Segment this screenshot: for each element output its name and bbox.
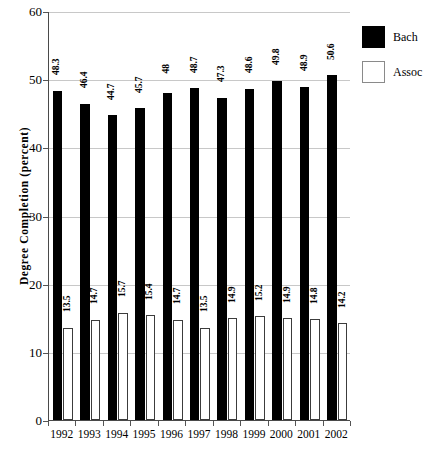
bar-assoc — [228, 318, 238, 420]
bar-value-label: 14.9 — [228, 278, 238, 312]
x-tick-label: 2002 — [316, 428, 356, 442]
chart-legend: Bach Assoc — [362, 26, 428, 96]
y-tick-label: 20 — [16, 278, 42, 291]
y-tick-mark — [43, 285, 48, 286]
y-tick-mark — [43, 421, 48, 422]
bar-value-label: 13.5 — [63, 287, 73, 321]
x-tick-mark — [240, 421, 241, 426]
bar-assoc — [63, 328, 73, 420]
y-tick-label: 50 — [16, 73, 42, 86]
bar-bach — [327, 75, 337, 420]
bar-assoc — [310, 319, 320, 420]
legend-swatch-assoc-icon — [362, 61, 385, 83]
bar-value-label: 49.8 — [272, 40, 282, 74]
bar-bach — [163, 93, 173, 420]
bar-group: 46.414.7 — [76, 12, 103, 420]
x-tick-mark — [158, 421, 159, 426]
bar-assoc — [91, 320, 101, 420]
bar-group: 50.614.2 — [324, 12, 351, 420]
bar-assoc — [118, 313, 128, 420]
bar-value-label: 50.6 — [327, 34, 337, 68]
y-tick-mark — [43, 12, 48, 13]
bar-bach — [300, 87, 310, 420]
plot-area: 48.313.546.414.744.715.745.715.44814.748… — [48, 12, 350, 421]
bar-bach — [217, 98, 227, 420]
bar-assoc — [338, 323, 348, 420]
bar-assoc — [283, 318, 293, 420]
bar-value-label: 15.4 — [146, 274, 156, 308]
bar-value-label: 48.9 — [300, 46, 310, 80]
bar-value-label: 46.4 — [80, 63, 90, 97]
legend-label-assoc: Assoc — [393, 65, 422, 80]
bar-value-label: 14.9 — [283, 278, 293, 312]
bar-value-label: 44.7 — [108, 75, 118, 109]
bar-value-label: 15.7 — [118, 272, 128, 306]
bar-chart-figure: Degree Completion (percent) 010203040506… — [0, 0, 428, 459]
bar-group: 48.713.5 — [186, 12, 213, 420]
bar-value-label: 13.5 — [200, 287, 210, 321]
y-tick-label: 60 — [16, 5, 42, 18]
x-tick-mark — [295, 421, 296, 426]
bar-value-label: 14.7 — [91, 279, 101, 313]
legend-swatch-bach-icon — [362, 26, 385, 48]
bar-bach — [53, 91, 63, 420]
bar-group: 47.314.9 — [214, 12, 241, 420]
bar-assoc — [173, 320, 183, 420]
bar-group: 45.715.4 — [131, 12, 158, 420]
y-axis-tick-labels: 0102030405060 — [14, 0, 42, 459]
legend-item-assoc: Assoc — [362, 61, 428, 83]
bar-bach — [190, 88, 200, 420]
bar-assoc — [255, 316, 265, 420]
y-tick-mark — [43, 80, 48, 81]
bar-bach — [245, 89, 255, 420]
x-tick-mark — [350, 421, 351, 426]
y-tick-mark — [43, 148, 48, 149]
bar-group: 48.313.5 — [49, 12, 76, 420]
bar-value-label: 47.3 — [217, 57, 227, 91]
y-tick-label: 40 — [16, 141, 42, 154]
x-tick-mark — [185, 421, 186, 426]
bar-group: 4814.7 — [159, 12, 186, 420]
y-tick-mark — [43, 217, 48, 218]
bar-assoc — [200, 328, 210, 420]
bar-value-label: 48.3 — [53, 50, 63, 84]
bar-group: 48.615.2 — [241, 12, 268, 420]
x-tick-mark — [75, 421, 76, 426]
bar-bach — [80, 104, 90, 420]
x-axis-tick-marks — [48, 421, 350, 427]
bar-value-label: 15.2 — [255, 276, 265, 310]
y-tick-label: 0 — [16, 414, 42, 427]
x-axis-tick-labels: 1992199319941995199619971998199920002001… — [48, 428, 350, 448]
bar-value-label: 48.7 — [190, 47, 200, 81]
bar-bach — [108, 115, 118, 420]
y-tick-mark — [43, 353, 48, 354]
bar-value-label: 14.8 — [310, 278, 320, 312]
legend-item-bach: Bach — [362, 26, 428, 48]
bar-group: 49.814.9 — [269, 12, 296, 420]
x-tick-mark — [130, 421, 131, 426]
bar-bach — [135, 108, 145, 420]
x-tick-mark — [48, 421, 49, 426]
x-tick-mark — [213, 421, 214, 426]
bar-bach — [272, 81, 282, 420]
bars-layer: 48.313.546.414.744.715.745.715.44814.748… — [49, 12, 350, 420]
bar-group: 48.914.8 — [296, 12, 323, 420]
bar-value-label: 45.7 — [135, 68, 145, 102]
legend-label-bach: Bach — [393, 30, 418, 45]
bar-value-label: 48.6 — [245, 48, 255, 82]
bar-value-label: 14.7 — [173, 279, 183, 313]
x-tick-mark — [268, 421, 269, 426]
y-tick-label: 10 — [16, 346, 42, 359]
x-tick-mark — [103, 421, 104, 426]
bar-assoc — [146, 315, 156, 420]
bar-value-label: 14.2 — [338, 282, 348, 316]
bar-value-label: 48 — [163, 52, 173, 86]
y-tick-label: 30 — [16, 210, 42, 223]
x-tick-mark — [323, 421, 324, 426]
bar-group: 44.715.7 — [104, 12, 131, 420]
